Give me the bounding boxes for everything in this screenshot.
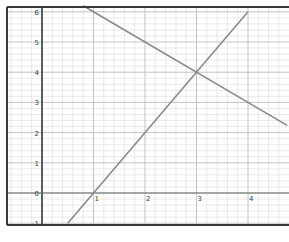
major-grid — [7, 7, 289, 225]
y-tick-label: 3 — [35, 99, 39, 107]
x-tick-label: 1 — [95, 195, 99, 203]
minor-grid — [7, 7, 289, 225]
y-tick-label: 5 — [35, 39, 39, 47]
plot-area: 1234-10123456 — [0, 0, 289, 242]
plot-frame — [7, 7, 289, 225]
x-tick-label: 3 — [198, 195, 202, 203]
y-tick-label: 4 — [35, 69, 40, 77]
x-tick-label: 4 — [249, 195, 254, 203]
axes — [7, 7, 289, 225]
y-tick-label: 6 — [35, 9, 40, 17]
series-line — [68, 12, 248, 223]
y-tick-label: 2 — [35, 130, 39, 138]
x-tick-label: 2 — [146, 195, 150, 203]
y-tick-label: 1 — [35, 160, 39, 168]
y-tick-label: 0 — [35, 190, 39, 198]
